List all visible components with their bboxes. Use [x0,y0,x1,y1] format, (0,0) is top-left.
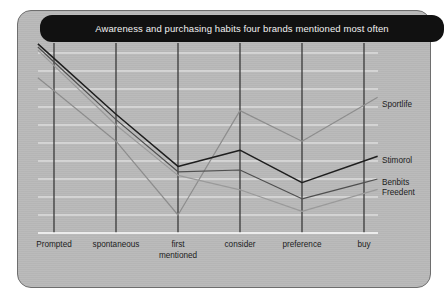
chart-title-bar: Awareness and purchasing habits four bra… [40,15,444,42]
series-label-benbits: Benbits [382,178,409,187]
x-tick-label-line1: first [151,239,205,250]
x-tick-label-buy: buy [357,239,370,250]
x-tick-label-line1: preference [282,239,321,250]
x-tick-label-prompted: Prompted [36,239,72,250]
x-tick-label-line1: consider [225,239,256,250]
x-tick-label-first: firstmentioned [151,239,205,261]
series-label-freedent: Freedent [382,188,415,197]
x-tick-label-line1: Prompted [36,239,72,250]
chart-title: Awareness and purchasing habits four bra… [95,23,389,34]
chart-screenshot: Awareness and purchasing habits four bra… [0,0,448,295]
x-tick-label-preference: preference [282,239,321,250]
x-tick-label-line1: buy [357,239,370,250]
series-label-stimorol: Stimorol [382,156,412,165]
x-tick-label-spontaneous: spontaneous [93,239,140,250]
x-tick-label-line2: mentioned [151,250,205,261]
x-axis-tick-labels: Promptedspontaneousfirstmentionedconside… [18,11,432,289]
series-label-sportlife: Sportlife [382,100,412,109]
x-tick-label-consider: consider [225,239,256,250]
x-tick-label-line1: spontaneous [93,239,140,250]
chart-card: Awareness and purchasing habits four bra… [17,10,431,288]
